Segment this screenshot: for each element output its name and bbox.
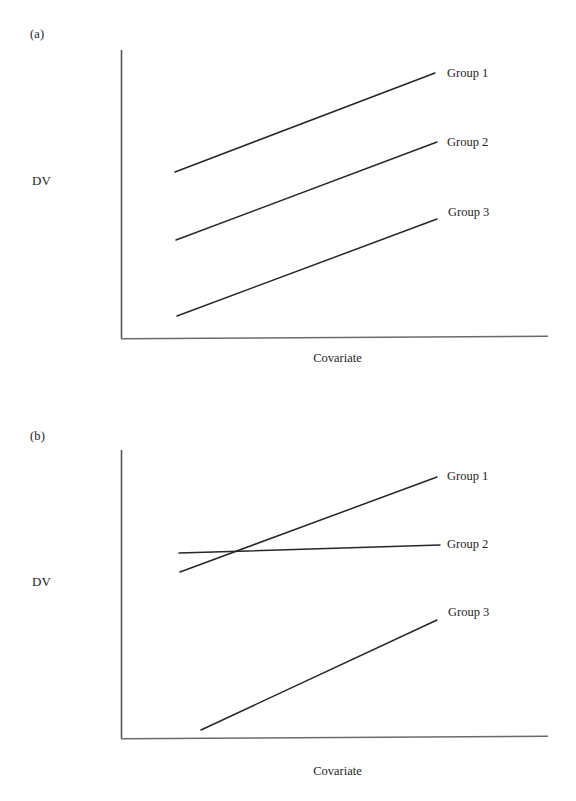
panel-b: (b) DV Covariate Group 1 Group 2 Group 3 (0, 400, 576, 801)
panel-b-line-group-1 (180, 477, 437, 572)
panel-a-plot (0, 0, 576, 400)
panel-b-series-label-group-2: Group 2 (447, 538, 488, 551)
panel-b-x-axis (121, 736, 548, 739)
panel-b-line-group-3 (201, 620, 437, 730)
panel-a-series-label-group-1: Group 1 (447, 67, 488, 80)
panel-b-series-label-group-1: Group 1 (447, 470, 488, 483)
panel-a-series-label-group-2: Group 2 (447, 136, 488, 149)
panel-b-plot (0, 400, 576, 801)
panel-a-x-axis (121, 336, 548, 339)
figure-page: aaaaa aaaaaa aaaaaa (a) DV Covariate Gro… (0, 0, 576, 801)
panel-b-line-group-2 (179, 545, 440, 553)
panel-a: (a) DV Covariate Group 1 Group 2 Group 3 (0, 0, 576, 400)
panel-b-series-label-group-3: Group 3 (448, 606, 489, 619)
panel-a-series-label-group-3: Group 3 (448, 206, 489, 219)
panel-a-line-group-3 (177, 219, 437, 316)
